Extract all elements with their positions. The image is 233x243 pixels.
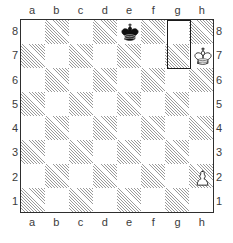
square-b4[interactable] <box>45 116 69 140</box>
file-label-bottom-e: e <box>117 216 141 228</box>
rank-label-right-3: 3 <box>216 146 230 158</box>
square-e1[interactable] <box>117 188 141 212</box>
square-a3[interactable] <box>21 140 45 164</box>
square-e7[interactable] <box>117 44 141 68</box>
square-a1[interactable] <box>21 188 45 212</box>
file-label-top-h: h <box>190 4 214 16</box>
rank-label-right-1: 1 <box>216 195 230 207</box>
square-f2[interactable] <box>141 164 165 188</box>
rank-label-left-4: 4 <box>4 122 18 134</box>
square-e5[interactable] <box>117 92 141 116</box>
square-f4[interactable] <box>141 116 165 140</box>
square-b7[interactable] <box>45 44 69 68</box>
file-label-bottom-g: g <box>166 216 190 228</box>
file-label-top-c: c <box>69 4 93 16</box>
square-f5[interactable] <box>141 92 165 116</box>
square-g5[interactable] <box>165 92 189 116</box>
square-f6[interactable] <box>141 68 165 92</box>
square-b6[interactable] <box>45 68 69 92</box>
square-c1[interactable] <box>69 188 93 212</box>
square-e3[interactable] <box>117 140 141 164</box>
rank-label-left-2: 2 <box>4 171 18 183</box>
rank-label-right-7: 7 <box>216 49 230 61</box>
square-g8[interactable] <box>165 20 189 44</box>
square-f7[interactable] <box>141 44 165 68</box>
square-d4[interactable] <box>93 116 117 140</box>
square-c4[interactable] <box>69 116 93 140</box>
file-label-top-d: d <box>93 4 117 16</box>
square-b2[interactable] <box>45 164 69 188</box>
square-h8[interactable] <box>189 20 213 44</box>
square-c7[interactable] <box>69 44 93 68</box>
square-a6[interactable] <box>21 68 45 92</box>
rank-label-right-6: 6 <box>216 74 230 86</box>
square-e2[interactable] <box>117 164 141 188</box>
square-g1[interactable] <box>165 188 189 212</box>
square-e4[interactable] <box>117 116 141 140</box>
board-squares <box>21 20 213 212</box>
rank-label-left-1: 1 <box>4 195 18 207</box>
square-b8[interactable] <box>45 20 69 44</box>
square-g7[interactable] <box>165 44 189 68</box>
rank-label-right-2: 2 <box>216 171 230 183</box>
square-a8[interactable] <box>21 20 45 44</box>
square-f3[interactable] <box>141 140 165 164</box>
square-f1[interactable] <box>141 188 165 212</box>
square-d3[interactable] <box>93 140 117 164</box>
rank-label-left-8: 8 <box>4 25 18 37</box>
file-label-top-a: a <box>20 4 44 16</box>
rank-label-left-7: 7 <box>4 49 18 61</box>
square-e8[interactable] <box>117 20 141 44</box>
file-label-top-e: e <box>117 4 141 16</box>
square-c6[interactable] <box>69 68 93 92</box>
square-d1[interactable] <box>93 188 117 212</box>
caption-sliver <box>14 233 164 243</box>
square-a2[interactable] <box>21 164 45 188</box>
square-h7[interactable] <box>189 44 213 68</box>
rank-label-right-5: 5 <box>216 98 230 110</box>
file-label-top-b: b <box>44 4 68 16</box>
chess-diagram: a b c d e f g h a b c d e f g h 8 7 6 5 … <box>0 0 233 243</box>
chess-board <box>20 19 214 213</box>
square-h6[interactable] <box>189 68 213 92</box>
square-h1[interactable] <box>189 188 213 212</box>
file-label-bottom-h: h <box>190 216 214 228</box>
square-d8[interactable] <box>93 20 117 44</box>
file-label-bottom-d: d <box>93 216 117 228</box>
square-d6[interactable] <box>93 68 117 92</box>
square-g2[interactable] <box>165 164 189 188</box>
rank-label-right-8: 8 <box>216 25 230 37</box>
file-label-bottom-a: a <box>20 216 44 228</box>
square-a4[interactable] <box>21 116 45 140</box>
square-c8[interactable] <box>69 20 93 44</box>
square-a5[interactable] <box>21 92 45 116</box>
square-b1[interactable] <box>45 188 69 212</box>
square-c2[interactable] <box>69 164 93 188</box>
rank-label-left-5: 5 <box>4 98 18 110</box>
square-g3[interactable] <box>165 140 189 164</box>
square-c3[interactable] <box>69 140 93 164</box>
square-d2[interactable] <box>93 164 117 188</box>
square-h5[interactable] <box>189 92 213 116</box>
square-d7[interactable] <box>93 44 117 68</box>
square-b5[interactable] <box>45 92 69 116</box>
file-label-top-f: f <box>141 4 165 16</box>
square-f8[interactable] <box>141 20 165 44</box>
square-d5[interactable] <box>93 92 117 116</box>
file-label-top-g: g <box>166 4 190 16</box>
square-a7[interactable] <box>21 44 45 68</box>
square-b3[interactable] <box>45 140 69 164</box>
square-e6[interactable] <box>117 68 141 92</box>
file-label-bottom-b: b <box>44 216 68 228</box>
square-h2[interactable] <box>189 164 213 188</box>
square-c5[interactable] <box>69 92 93 116</box>
rank-label-left-6: 6 <box>4 74 18 86</box>
square-h3[interactable] <box>189 140 213 164</box>
rank-label-left-3: 3 <box>4 146 18 158</box>
file-label-bottom-c: c <box>69 216 93 228</box>
rank-label-right-4: 4 <box>216 122 230 134</box>
file-label-bottom-f: f <box>141 216 165 228</box>
square-g6[interactable] <box>165 68 189 92</box>
square-g4[interactable] <box>165 116 189 140</box>
square-h4[interactable] <box>189 116 213 140</box>
